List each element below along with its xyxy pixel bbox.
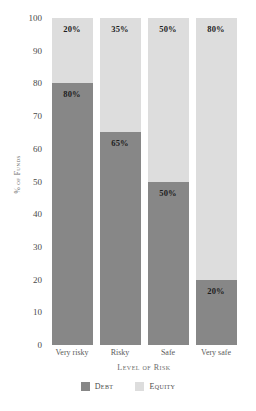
legend-item[interactable]: Equity bbox=[135, 382, 175, 391]
bar-segment-label: 65% bbox=[111, 138, 129, 148]
x-axis-title: Level of Risk bbox=[48, 363, 240, 372]
y-tick-label: 20 bbox=[8, 275, 42, 284]
legend-label: Equity bbox=[149, 382, 175, 391]
y-tick-label: 90 bbox=[8, 46, 42, 55]
legend-swatch-icon bbox=[81, 382, 90, 391]
bar-segment-label: 20% bbox=[207, 286, 225, 296]
bar-segment-equity[interactable]: 50% bbox=[148, 18, 189, 182]
y-tick-label: 10 bbox=[8, 308, 42, 317]
y-tick-label: 40 bbox=[8, 210, 42, 219]
bar-column[interactable]: 50%50% bbox=[148, 18, 189, 345]
chart-legend: DebtEquity bbox=[0, 382, 256, 391]
x-tick-label: Very safe bbox=[192, 348, 240, 357]
y-tick-label: 80 bbox=[8, 79, 42, 88]
y-tick-label: 0 bbox=[8, 341, 42, 350]
bar-column[interactable]: 20%80% bbox=[52, 18, 93, 345]
plot-area: 20%80%35%65%50%50%80%20% bbox=[48, 18, 240, 345]
legend-item[interactable]: Debt bbox=[81, 382, 114, 391]
x-tick-label: Risky bbox=[96, 348, 144, 357]
bar-segment-equity[interactable]: 80% bbox=[196, 18, 237, 280]
legend-swatch-icon bbox=[135, 382, 144, 391]
x-tick-label: Safe bbox=[144, 348, 192, 357]
bar-segment-debt[interactable]: 65% bbox=[100, 132, 141, 345]
y-axis-tick-labels: 0102030405060708090100 bbox=[8, 18, 42, 345]
y-tick-label: 100 bbox=[8, 14, 42, 23]
bar-segment-label: 35% bbox=[111, 24, 129, 34]
x-tick-label: Very risky bbox=[48, 348, 96, 357]
bar-segment-label: 50% bbox=[159, 24, 177, 34]
y-tick-label: 30 bbox=[8, 242, 42, 251]
legend-label: Debt bbox=[95, 382, 114, 391]
bar-segment-debt[interactable]: 50% bbox=[148, 182, 189, 346]
bar-segment-equity[interactable]: 35% bbox=[100, 18, 141, 132]
y-tick-label: 70 bbox=[8, 112, 42, 121]
y-tick-label: 60 bbox=[8, 144, 42, 153]
bar-segment-label: 80% bbox=[63, 89, 81, 99]
bar-segment-label: 80% bbox=[207, 24, 225, 34]
y-tick-label: 50 bbox=[8, 177, 42, 186]
bar-column[interactable]: 35%65% bbox=[100, 18, 141, 345]
bar-segment-debt[interactable]: 80% bbox=[52, 83, 93, 345]
bar-segment-label: 50% bbox=[159, 188, 177, 198]
bar-segment-label: 20% bbox=[63, 24, 81, 34]
bar-segment-debt[interactable]: 20% bbox=[196, 280, 237, 345]
stacked-bar-chart: % of Funds 0102030405060708090100 20%80%… bbox=[0, 0, 256, 411]
bar-segment-equity[interactable]: 20% bbox=[52, 18, 93, 83]
x-axis-tick-labels: Very riskyRiskySafeVery safe bbox=[48, 348, 240, 362]
bar-column[interactable]: 80%20% bbox=[196, 18, 237, 345]
